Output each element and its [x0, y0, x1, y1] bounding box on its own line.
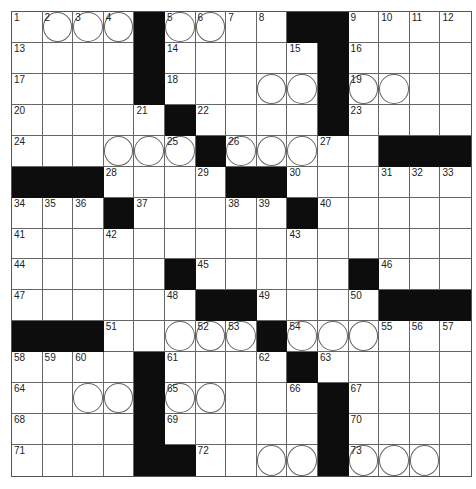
- grid-cell[interactable]: [104, 74, 135, 105]
- grid-cell[interactable]: 53: [226, 321, 257, 352]
- grid-cell[interactable]: [43, 414, 74, 445]
- grid-cell[interactable]: 18: [165, 74, 196, 105]
- grid-cell[interactable]: 27: [318, 136, 349, 167]
- grid-cell[interactable]: 10: [379, 12, 410, 43]
- grid-cell[interactable]: [226, 43, 257, 74]
- grid-cell[interactable]: [379, 383, 410, 414]
- grid-cell[interactable]: [410, 105, 441, 136]
- grid-cell[interactable]: 67: [349, 383, 380, 414]
- grid-cell[interactable]: [318, 259, 349, 290]
- grid-cell[interactable]: 24: [12, 136, 43, 167]
- grid-cell[interactable]: 9: [349, 12, 380, 43]
- grid-cell[interactable]: 46: [379, 259, 410, 290]
- grid-cell[interactable]: 3: [73, 12, 104, 43]
- grid-cell[interactable]: 60: [73, 352, 104, 383]
- grid-cell[interactable]: [73, 74, 104, 105]
- grid-cell[interactable]: [318, 167, 349, 198]
- grid-cell[interactable]: [410, 43, 441, 74]
- grid-cell[interactable]: [379, 229, 410, 260]
- grid-cell[interactable]: [440, 229, 471, 260]
- grid-cell[interactable]: [134, 290, 165, 321]
- grid-cell[interactable]: 66: [287, 383, 318, 414]
- grid-cell[interactable]: [410, 352, 441, 383]
- grid-cell[interactable]: [226, 105, 257, 136]
- grid-cell[interactable]: 56: [410, 321, 441, 352]
- grid-cell[interactable]: [410, 259, 441, 290]
- grid-cell[interactable]: [104, 290, 135, 321]
- grid-cell[interactable]: [73, 259, 104, 290]
- grid-cell[interactable]: [287, 290, 318, 321]
- grid-cell[interactable]: 55: [379, 321, 410, 352]
- grid-cell[interactable]: 19: [349, 74, 380, 105]
- grid-cell[interactable]: [287, 74, 318, 105]
- grid-cell[interactable]: [440, 198, 471, 229]
- grid-cell[interactable]: [134, 167, 165, 198]
- grid-cell[interactable]: [226, 383, 257, 414]
- grid-cell[interactable]: [43, 383, 74, 414]
- grid-cell[interactable]: [379, 74, 410, 105]
- grid-cell[interactable]: 51: [104, 321, 135, 352]
- grid-cell[interactable]: [104, 445, 135, 476]
- grid-cell[interactable]: [165, 198, 196, 229]
- grid-cell[interactable]: 40: [318, 198, 349, 229]
- grid-cell[interactable]: [257, 43, 288, 74]
- grid-cell[interactable]: [226, 259, 257, 290]
- grid-cell[interactable]: 13: [12, 43, 43, 74]
- grid-cell[interactable]: [287, 445, 318, 476]
- grid-cell[interactable]: 64: [12, 383, 43, 414]
- grid-cell[interactable]: [257, 383, 288, 414]
- grid-cell[interactable]: [43, 136, 74, 167]
- grid-cell[interactable]: [257, 414, 288, 445]
- grid-cell[interactable]: [104, 43, 135, 74]
- grid-cell[interactable]: [43, 105, 74, 136]
- grid-cell[interactable]: [287, 136, 318, 167]
- grid-cell[interactable]: 30: [287, 167, 318, 198]
- grid-cell[interactable]: 69: [165, 414, 196, 445]
- grid-cell[interactable]: [104, 414, 135, 445]
- grid-cell[interactable]: 50: [349, 290, 380, 321]
- grid-cell[interactable]: [134, 259, 165, 290]
- grid-cell[interactable]: 2: [43, 12, 74, 43]
- grid-cell[interactable]: [165, 229, 196, 260]
- grid-cell[interactable]: [349, 136, 380, 167]
- grid-cell[interactable]: 41: [12, 229, 43, 260]
- grid-cell[interactable]: [43, 259, 74, 290]
- grid-cell[interactable]: [257, 229, 288, 260]
- grid-cell[interactable]: [410, 414, 441, 445]
- grid-cell[interactable]: [440, 105, 471, 136]
- grid-cell[interactable]: [104, 136, 135, 167]
- grid-cell[interactable]: [73, 105, 104, 136]
- grid-cell[interactable]: 17: [12, 74, 43, 105]
- grid-cell[interactable]: [226, 229, 257, 260]
- grid-cell[interactable]: 12: [440, 12, 471, 43]
- grid-cell[interactable]: 48: [165, 290, 196, 321]
- grid-cell[interactable]: [440, 445, 471, 476]
- grid-cell[interactable]: [440, 259, 471, 290]
- grid-cell[interactable]: [440, 383, 471, 414]
- grid-cell[interactable]: 4: [104, 12, 135, 43]
- grid-cell[interactable]: [410, 383, 441, 414]
- grid-cell[interactable]: 15: [287, 43, 318, 74]
- grid-cell[interactable]: [318, 229, 349, 260]
- grid-cell[interactable]: [257, 445, 288, 476]
- grid-cell[interactable]: 26: [226, 136, 257, 167]
- grid-cell[interactable]: [226, 74, 257, 105]
- grid-cell[interactable]: [104, 383, 135, 414]
- grid-cell[interactable]: [134, 229, 165, 260]
- grid-cell[interactable]: 47: [12, 290, 43, 321]
- grid-cell[interactable]: [134, 321, 165, 352]
- grid-cell[interactable]: 54: [287, 321, 318, 352]
- grid-cell[interactable]: [196, 383, 227, 414]
- grid-cell[interactable]: 36: [73, 198, 104, 229]
- grid-cell[interactable]: [165, 167, 196, 198]
- grid-cell[interactable]: [318, 290, 349, 321]
- grid-cell[interactable]: [318, 321, 349, 352]
- grid-cell[interactable]: [379, 43, 410, 74]
- grid-cell[interactable]: [410, 74, 441, 105]
- grid-cell[interactable]: [43, 43, 74, 74]
- grid-cell[interactable]: 16: [349, 43, 380, 74]
- grid-cell[interactable]: [196, 352, 227, 383]
- grid-cell[interactable]: 65: [165, 383, 196, 414]
- grid-cell[interactable]: [73, 383, 104, 414]
- grid-cell[interactable]: 6: [196, 12, 227, 43]
